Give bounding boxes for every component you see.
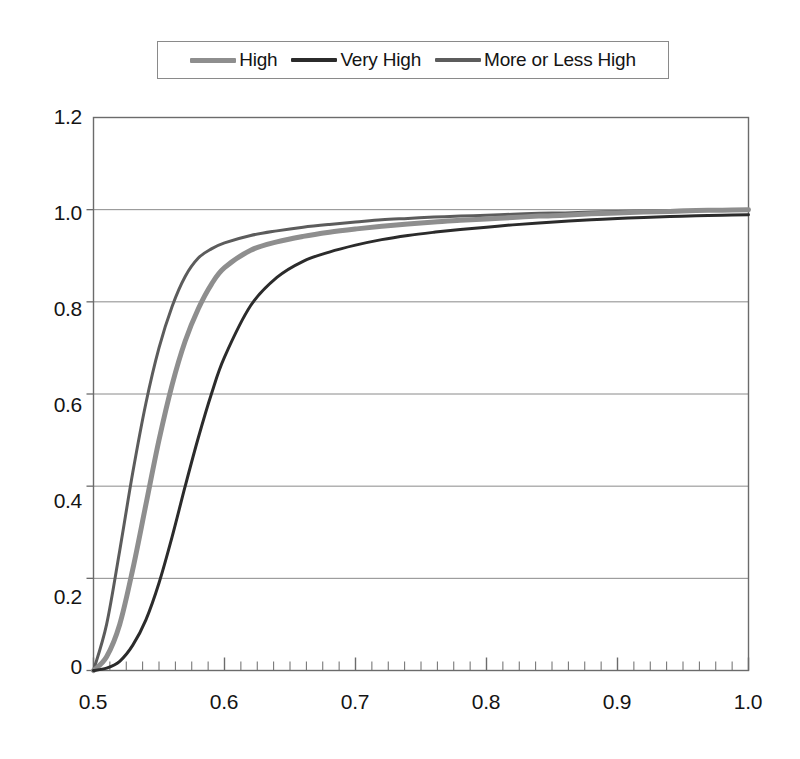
data-series-line [94, 210, 749, 671]
axis-major-ticks [87, 210, 749, 671]
x-axis-minor-ticks [110, 662, 732, 671]
data-series-line [94, 215, 749, 671]
plot-canvas [0, 0, 800, 759]
data-series-group [94, 210, 749, 671]
line-chart: 1.2 1.0 0.8 0.6 0.4 0.2 0 0.5 0.6 0.7 0.… [0, 0, 800, 759]
data-series-line [94, 210, 749, 671]
